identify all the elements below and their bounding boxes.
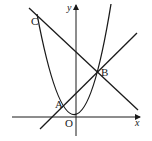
x-axis-label: x	[134, 117, 140, 128]
point-label-b: B	[101, 66, 108, 78]
point-label-a: A	[55, 98, 63, 110]
origin-label: O	[65, 117, 73, 129]
parabola-curve	[37, 4, 111, 115]
coordinate-diagram: C B A O x y	[0, 0, 152, 141]
y-axis-label: y	[66, 2, 72, 13]
line-ab	[40, 33, 137, 129]
line-cb	[29, 8, 138, 110]
point-label-c: C	[31, 15, 38, 27]
